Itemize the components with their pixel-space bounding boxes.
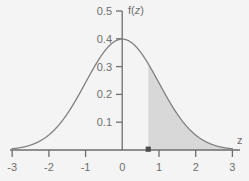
y-tick-label-0.1: 0.1 [88,117,112,128]
x-tick-label-0: 0 [110,162,134,173]
cut-point-marker-dot [146,147,151,152]
y-axis-title-suffix: ) [140,4,144,16]
y-tick-label-0.5: 0.5 [88,6,112,17]
chart-plot-area [0,0,249,181]
x-axis-title: z [237,135,243,146]
x-tick-label-1: 1 [147,162,171,173]
y-tick-label-0.4: 0.4 [88,34,112,45]
shaded-tail-region [148,64,232,150]
y-tick-label-0.2: 0.2 [88,89,112,100]
normal-distribution-chart: 0.5 0.4 0.3 0.2 0.1 -3 -2 -1 0 1 2 3 f(z… [0,0,249,181]
y-axis-title: f(z) [128,5,144,16]
x-tick-label-2: 2 [184,162,208,173]
x-axis-ticks [12,150,232,157]
x-tick-label-3: 3 [220,162,244,173]
y-axis-ticks [116,11,122,122]
y-axis-title-prefix: f( [128,4,135,16]
x-tick-label--2: -2 [37,162,61,173]
y-tick-label-0.3: 0.3 [88,62,112,73]
x-tick-label--3: -3 [0,162,24,173]
x-tick-label--1: -1 [74,162,98,173]
